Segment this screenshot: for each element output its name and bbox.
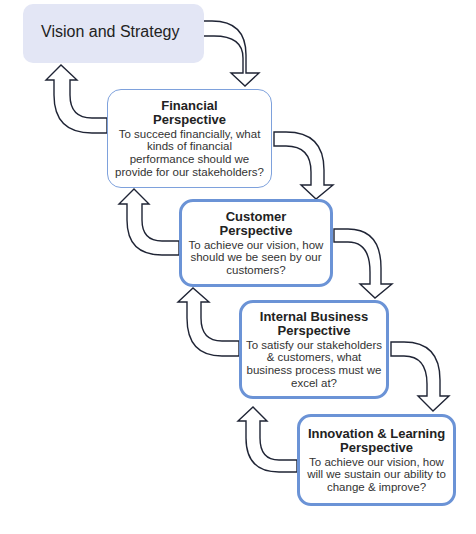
vision-and-strategy-box: Vision and Strategy	[23, 4, 204, 63]
financial-perspective-box: Financial Perspective To succeed financi…	[107, 89, 272, 188]
internal-description: To satisfy our stakeholders & customers,…	[244, 339, 384, 389]
internal-title-line1: Internal Business	[260, 310, 368, 324]
customer-perspective-box: Customer Perspective To achieve our visi…	[179, 199, 333, 287]
innovation-description: To achieve our vision, how will we susta…	[302, 456, 452, 494]
innovation-title-line2: Perspective	[340, 441, 413, 455]
financial-title-line1: Financial	[161, 99, 217, 113]
down-arrow-icon	[334, 229, 392, 298]
internal-business-perspective-box: Internal Business Perspective To satisfy…	[239, 300, 389, 399]
internal-title-line2: Perspective	[278, 324, 351, 338]
up-arrow-icon	[119, 189, 179, 255]
down-arrow-icon	[274, 132, 333, 199]
up-arrow-icon	[46, 65, 107, 133]
up-arrow-icon	[178, 288, 239, 356]
financial-title-line2: Perspective	[153, 113, 226, 127]
innovation-learning-perspective-box: Innovation & Learning Perspective To ach…	[297, 414, 456, 506]
customer-title-line1: Customer	[226, 210, 287, 224]
down-arrow-icon	[200, 21, 259, 86]
innovation-title-line1: Innovation & Learning	[308, 427, 445, 441]
vision-title: Vision and Strategy	[41, 23, 179, 41]
up-arrow-icon	[238, 407, 297, 472]
financial-description: To succeed financially, what kinds of fi…	[115, 128, 265, 178]
customer-title-line2: Perspective	[220, 224, 293, 238]
down-arrow-icon	[391, 342, 449, 411]
customer-description: To achieve our vision, how should we be …	[189, 239, 324, 277]
